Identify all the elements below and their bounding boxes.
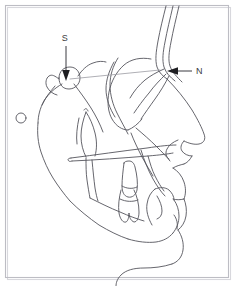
dorsum-sellae-line [46,75,59,95]
planum-sphenoidale-line [78,61,106,76]
maxillary-tuberosity-line [141,150,165,196]
sella-turcica-group [46,61,160,95]
sphenoid-orbital-outline [108,58,151,130]
lower-incisor-outline [119,190,139,222]
coronoid-tip-line [84,109,88,111]
coronoid-process-line [81,112,86,157]
ramus-anterior-border-line [86,158,90,198]
lower-incisor-cervical-line [120,199,138,201]
nasion-label: N [196,66,203,76]
posterior-cranial-outline [38,84,62,123]
upper-incisor-cervical-line [122,186,137,188]
alar-base-line [166,140,178,159]
molar-outline [157,196,162,219]
mandible-posterior-border-line [38,123,70,201]
mandible-group [38,123,179,242]
annotation-sella: S [62,33,70,81]
nasal-dorsum-line [167,79,205,144]
ramus-posterior-border-line [92,160,98,201]
mentolabial-sulcus-line [174,215,177,229]
orbital-floor-line [128,119,142,130]
palate-inferior-line [72,153,173,161]
sella-label: S [62,33,68,43]
lip-seam-line [173,199,184,200]
teeth-group [119,161,162,222]
condylar-neck-line [77,118,79,144]
sella-arrowhead [62,70,70,81]
upper-lip-line [173,168,186,199]
mandible-lower-border-line [128,233,173,242]
submental-line [116,264,172,286]
gonial-angle-line [70,201,128,239]
columella-line [184,156,192,164]
palatal-line-left-hook [68,158,72,161]
soft-tissue-chin-line [172,230,183,264]
subnasale-line [173,164,184,168]
clivus-line [74,84,103,132]
external-oblique-ridge-line [90,198,144,221]
coronoid-anterior-line [86,112,97,156]
figure-border [6,6,231,280]
middle-cranial-fossa-line [110,58,128,134]
porion-ring-marker [16,113,26,123]
symphysis-anterior-line [173,200,179,233]
annotation-nasion: N [167,66,203,76]
soft-tissue-profile-group [116,168,186,286]
nose-profile-group [166,79,205,168]
nasion-arrowhead [167,67,178,75]
palatal-plane-line [71,145,176,158]
sella-nasion-construction-line [70,70,160,79]
symphysis-inner-line [147,189,155,225]
tracing-canvas: S N [0,0,238,286]
cephalometric-tracing-figure: S N [0,0,238,286]
orbital-roof-line [134,74,166,113]
